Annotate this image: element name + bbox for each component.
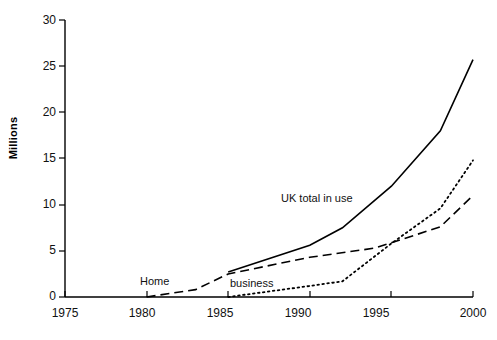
line-chart: Millions 30 25 20 15 10 5 0 1975 1980 19… — [0, 0, 497, 340]
data-series-group — [147, 60, 473, 297]
series-line-uk-total-in-use — [228, 60, 473, 272]
series-line-home — [147, 195, 473, 297]
plot-area — [0, 0, 497, 340]
axes — [59, 20, 473, 297]
